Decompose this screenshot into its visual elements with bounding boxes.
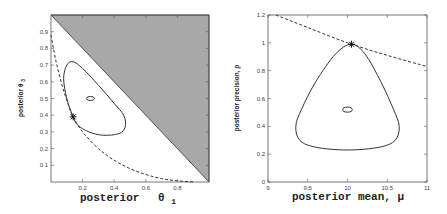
y-tick-label: 0.7 bbox=[40, 62, 49, 68]
y-tick-label: 0.4 bbox=[257, 123, 266, 129]
x-tick-label: 0.4 bbox=[110, 185, 119, 191]
x-tick-label: 0.2 bbox=[78, 185, 87, 191]
left-y-axis-label: posterior θ 3 bbox=[17, 79, 26, 117]
y-tick-label: 0.1 bbox=[40, 162, 49, 168]
left-x-axis-label: posterior θ 1 bbox=[80, 192, 176, 206]
y-tick-label: 0.3 bbox=[40, 129, 49, 135]
y-tick-label: 0.9 bbox=[40, 29, 49, 35]
axes-frame bbox=[268, 15, 427, 182]
outer-contour bbox=[296, 44, 399, 150]
right-y-axis-label: posterior precision, ρ bbox=[233, 65, 241, 132]
y-tick-label: 0.2 bbox=[40, 146, 49, 152]
x-tick-label: 11 bbox=[424, 185, 431, 191]
x-tick-label: 0.6 bbox=[142, 185, 151, 191]
x-tick-label: 0.8 bbox=[173, 185, 182, 191]
inner-contour bbox=[87, 96, 95, 100]
x-tick-label: 9 bbox=[266, 185, 270, 191]
y-tick-label: 0.4 bbox=[40, 112, 49, 118]
y-tick-label: 1 bbox=[262, 40, 266, 46]
right-x-axis-label: posterior mean, μ bbox=[292, 191, 404, 203]
y-tick-label: 0.2 bbox=[257, 151, 266, 157]
y-tick-label: 0.6 bbox=[257, 96, 266, 102]
optimum-star-marker bbox=[348, 41, 355, 48]
right-plot: 99.51010.51100.20.40.60.811.2 bbox=[257, 12, 431, 191]
left-plot: 0.20.40.60.80.10.20.30.40.50.60.70.80.9 bbox=[40, 15, 209, 191]
y-tick-label: 0.6 bbox=[40, 79, 49, 85]
chart-figure: 0.20.40.60.80.10.20.30.40.50.60.70.80.9 … bbox=[0, 0, 447, 214]
y-tick-label: 0.8 bbox=[257, 68, 266, 74]
y-tick-label: 0.8 bbox=[40, 45, 49, 51]
y-tick-label: 1.2 bbox=[257, 12, 266, 18]
shaded-region bbox=[51, 15, 209, 182]
optimum-star-marker bbox=[70, 113, 77, 120]
y-tick-label: 0.5 bbox=[40, 96, 49, 102]
inner-contour bbox=[343, 107, 353, 112]
y-tick-label: 0 bbox=[262, 179, 266, 185]
